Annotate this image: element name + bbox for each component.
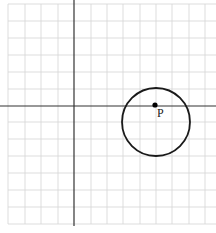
coordinate-plane: P bbox=[0, 0, 216, 233]
point-p-label: P bbox=[157, 106, 164, 120]
grid bbox=[8, 4, 216, 224]
axes bbox=[0, 0, 216, 226]
coordinate-diagram: P bbox=[0, 0, 216, 233]
